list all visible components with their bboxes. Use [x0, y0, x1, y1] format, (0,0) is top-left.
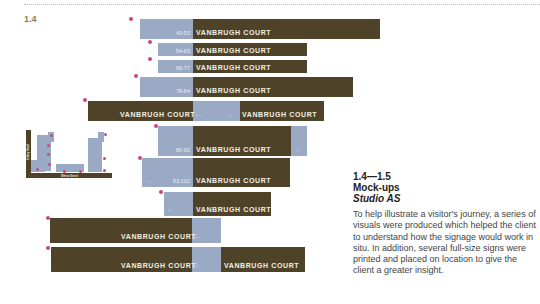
- location-pin: [134, 74, 138, 78]
- sign-arrow-icon: ·· ▪: [228, 114, 233, 118]
- sign-label: VANBRUGH COURT: [196, 64, 271, 71]
- sign-label: VANBRUGH COURT: [196, 206, 271, 213]
- sign-arrow-icon: ▪ ··: [195, 236, 200, 240]
- location-pin: [63, 170, 66, 173]
- top-dotted-rule: [24, 4, 540, 5]
- sign-mockup-10: VANBRUGH COURT ▪ ·· VANBRUGH COURT: [51, 247, 305, 272]
- caption-studio: Studio AS: [353, 193, 537, 204]
- sign-mockup-85-92: 85-92 VANBRUGH COURT ·· ▪: [158, 126, 307, 156]
- location-pin: [103, 157, 106, 160]
- sign-mockup-54-65: 54-65 VANBRUGH COURT: [158, 43, 307, 56]
- caption-title: Mock-ups: [353, 182, 537, 193]
- sign-number-range: 43-53: [176, 30, 190, 36]
- sign-number-range: 78-84: [176, 88, 190, 94]
- location-pin: [48, 163, 51, 166]
- sign-arrow-icon: ▪ ··: [195, 265, 200, 269]
- caption-body: To help illustrate a visitor's journey, …: [353, 209, 537, 277]
- sign-small-text: ·· ··: [147, 180, 153, 184]
- sign-blue-panel: [140, 77, 193, 97]
- sign-label-right: VANBRUGH COURT: [242, 111, 317, 118]
- sign-arrow-icon: ▪ ·· ·: [196, 114, 203, 118]
- sign-blue-panel: [140, 19, 193, 39]
- sign-label-left: VANBRUGH COURT: [120, 111, 195, 118]
- sign-mockup-93-102: ·· ·· 93-102 VANBRUGH COURT: [142, 158, 290, 187]
- location-pin: [148, 57, 152, 61]
- sign-mockup-9: VANBRUGH COURT ▪ ··: [50, 218, 221, 243]
- location-pin: [148, 40, 152, 44]
- location-pin: [129, 17, 133, 21]
- road-horizontal-label: Wheat Street: [61, 174, 78, 178]
- location-pin: [159, 190, 163, 194]
- sign-label: VANBRUGH COURT: [196, 87, 271, 94]
- location-pin: [47, 153, 50, 156]
- sign-mockup-78-84: 78-84 VANBRUGH COURT: [140, 77, 353, 97]
- sign-label: VANBRUGH COURT: [196, 47, 271, 54]
- sign-number-range: 66-77: [176, 65, 190, 71]
- sign-mockup-43-53: 43-53 VANBRUGH COURT: [140, 19, 380, 39]
- location-pin: [50, 134, 53, 137]
- sign-label: VANBRUGH COURT: [196, 177, 271, 184]
- sign-label-left: VANBRUGH COURT: [121, 262, 196, 269]
- location-pin: [79, 170, 82, 173]
- sign-mockup-double: VANBRUGH COURT ▪ ·· · ·· ▪ VANBRUGH COUR…: [88, 101, 324, 121]
- caption-range: 1.4—1.5: [353, 171, 537, 182]
- sign-mockup-66-77: 66-77 VANBRUGH COURT: [158, 60, 307, 73]
- sign-number-range: 85-92: [176, 147, 190, 153]
- location-pin: [103, 169, 106, 172]
- location-pin: [104, 133, 107, 136]
- road-vertical-label: Sibley Road: [26, 144, 30, 160]
- sign-arrow-icon: ·· ▪: [295, 149, 300, 153]
- sign-number-range: 93-102: [173, 178, 190, 184]
- location-pin: [46, 246, 50, 250]
- sign-blue-panel: [193, 101, 240, 121]
- sign-label-right: VANBRUGH COURT: [224, 262, 299, 269]
- location-pin: [36, 168, 39, 171]
- location-pin: [47, 144, 50, 147]
- building-block: [88, 138, 102, 172]
- caption-block: 1.4—1.5 Mock-ups Studio AS To help illus…: [353, 171, 537, 277]
- sign-label: VANBRUGH COURT: [121, 233, 196, 240]
- sign-label: VANBRUGH COURT: [196, 29, 271, 36]
- sign-number-range: 54-65: [176, 48, 190, 54]
- location-pin: [83, 98, 87, 102]
- sign-mockup-8: ▪ ·· VANBRUGH COURT: [164, 192, 271, 216]
- site-plan-map: Sibley Road Wheat Street: [26, 130, 128, 178]
- sign-label: VANBRUGH COURT: [196, 146, 271, 153]
- sign-arrow-icon: ▪ ··: [169, 209, 174, 213]
- figure-number: 1.4: [24, 14, 37, 24]
